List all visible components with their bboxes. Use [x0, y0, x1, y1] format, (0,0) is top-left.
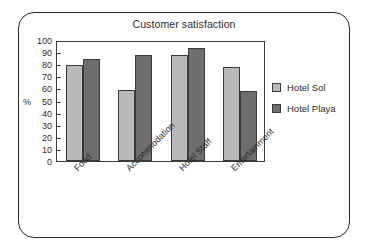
y-tick-label: 70 — [30, 73, 52, 82]
y-tick-mark — [56, 77, 61, 78]
chart-title: Customer satisfaction — [0, 18, 368, 30]
y-tick-mark — [56, 138, 61, 139]
y-tick-mark — [56, 126, 61, 127]
y-tick-mark — [56, 65, 61, 66]
y-tick-label: 100 — [30, 37, 52, 46]
bar-entertainment-hotel-sol — [223, 67, 240, 161]
y-tick-mark — [56, 150, 61, 151]
bar-food-hotel-playa — [83, 59, 100, 161]
y-tick-mark — [56, 89, 61, 90]
y-tick-label: 60 — [30, 85, 52, 94]
y-tick-label: 0 — [30, 158, 52, 167]
bar-food-hotel-sol — [66, 65, 83, 161]
legend-swatch-icon — [272, 104, 281, 113]
y-tick-label: 90 — [30, 49, 52, 58]
y-tick-label: 10 — [30, 145, 52, 154]
legend-swatch-icon — [272, 83, 281, 92]
x-axis-tick-labels: FoodAccommodationHotel StaffEntertainmen… — [56, 162, 265, 222]
legend-label: Hotel Sol — [287, 82, 326, 93]
y-tick-mark — [56, 114, 61, 115]
y-tick-label: 80 — [30, 61, 52, 70]
legend-item: Hotel Sol — [272, 82, 352, 93]
y-tick-mark — [56, 53, 61, 54]
y-tick-mark — [56, 102, 61, 103]
legend-item: Hotel Playa — [272, 103, 352, 114]
y-tick-label: 40 — [30, 109, 52, 118]
y-axis-tick-labels: 0102030405060708090100 — [28, 41, 52, 162]
y-tick-label: 30 — [30, 121, 52, 130]
plot-area — [56, 41, 265, 162]
chart-figure: Customer satisfaction % 0102030405060708… — [0, 0, 368, 251]
y-tick-label: 50 — [30, 97, 52, 106]
y-tick-label: 20 — [30, 133, 52, 142]
bar-hotel-staff-hotel-sol — [171, 55, 188, 161]
bar-accommodation-hotel-sol — [118, 90, 135, 161]
chart-legend: Hotel SolHotel Playa — [272, 82, 352, 124]
legend-label: Hotel Playa — [287, 103, 336, 114]
